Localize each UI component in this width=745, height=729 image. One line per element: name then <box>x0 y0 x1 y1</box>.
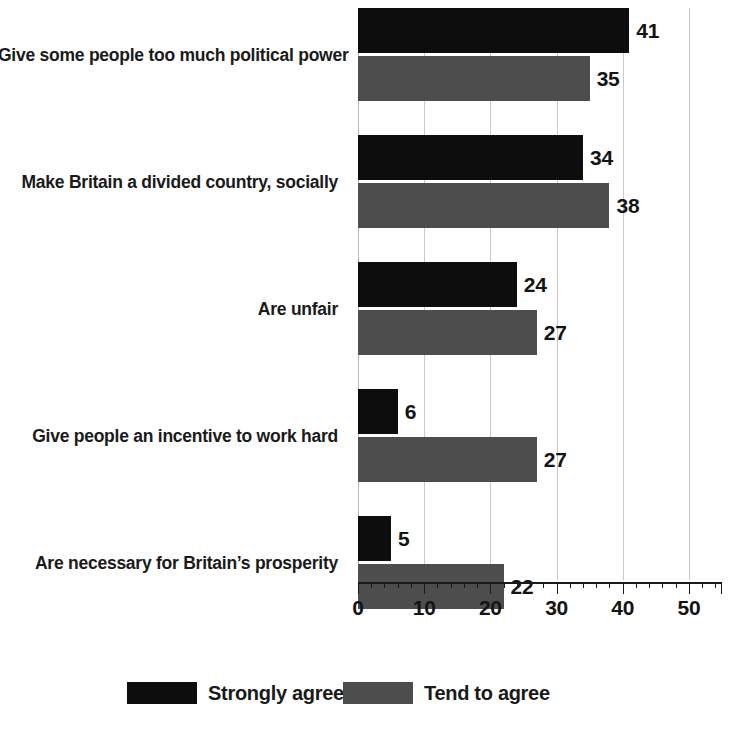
legend-swatch-icon <box>343 682 413 704</box>
tick-minor <box>715 582 716 588</box>
tick-major <box>490 582 491 594</box>
tick-minor <box>636 582 637 588</box>
category-label: Are necessary for Britain’s prosperity <box>0 552 338 573</box>
bar-group: 2427 <box>358 262 722 355</box>
bar-group: 4135 <box>358 8 722 101</box>
bar-row: 27 <box>358 437 722 482</box>
bar-row: 27 <box>358 310 722 355</box>
bar-tend-to-agree[interactable] <box>358 437 537 482</box>
tick-minor <box>451 582 452 588</box>
bar-value-label: 27 <box>544 448 567 472</box>
bar-value-label: 38 <box>616 194 639 218</box>
tick-minor <box>702 582 703 588</box>
x-tick-label: 20 <box>479 596 502 620</box>
tick-minor <box>530 582 531 588</box>
legend-label: Strongly agree <box>208 682 344 705</box>
plot-area: 413534382427627522 <box>358 8 722 580</box>
legend-label: Tend to agree <box>424 682 550 705</box>
category-label: Make Britain a divided country, socially <box>0 171 338 192</box>
bar-row: 35 <box>358 56 722 101</box>
bar-strongly-agree[interactable] <box>358 262 517 307</box>
tick-minor <box>649 582 650 588</box>
tick-minor <box>398 582 399 588</box>
tick-minor <box>517 582 518 588</box>
bar-row: 24 <box>358 262 722 307</box>
bar-strongly-agree[interactable] <box>358 389 398 434</box>
tick-major <box>689 582 690 594</box>
tick-minor <box>504 582 505 588</box>
bar-value-label: 41 <box>636 19 659 43</box>
x-axis-line <box>358 582 722 584</box>
tick-minor <box>477 582 478 588</box>
tick-minor <box>371 582 372 588</box>
bar-strongly-agree[interactable] <box>358 135 583 180</box>
bar-tend-to-agree[interactable] <box>358 310 537 355</box>
legend: Strongly agreeTend to agree <box>0 676 745 716</box>
bar-row: 34 <box>358 135 722 180</box>
bar-group: 627 <box>358 389 722 482</box>
x-tick-label: 50 <box>678 596 701 620</box>
x-tick-label: 40 <box>611 596 634 620</box>
tick-minor <box>411 582 412 588</box>
tick-minor <box>609 582 610 588</box>
tick-major <box>557 582 558 594</box>
tick-minor <box>437 582 438 588</box>
x-tick-label: 30 <box>545 596 568 620</box>
bar-row: 41 <box>358 8 722 53</box>
category-label: Are unfair <box>0 298 338 319</box>
tick-minor <box>570 582 571 588</box>
tick-major <box>623 582 624 594</box>
tick-minor <box>676 582 677 588</box>
tick-major <box>358 582 359 594</box>
category-label: Give some people too much political powe… <box>0 44 338 65</box>
bar-row: 5 <box>358 516 722 561</box>
x-axis: 01020304050 <box>358 582 722 596</box>
bar-group: 3438 <box>358 135 722 228</box>
tick-minor <box>596 582 597 588</box>
tick-minor <box>384 582 385 588</box>
x-tick-label: 10 <box>413 596 436 620</box>
tick-minor <box>464 582 465 588</box>
bar-tend-to-agree[interactable] <box>358 183 609 228</box>
bar-value-label: 24 <box>524 273 547 297</box>
tick-minor <box>583 582 584 588</box>
legend-swatch-icon <box>127 682 197 704</box>
legend-item[interactable]: Strongly agree <box>127 676 344 710</box>
bar-strongly-agree[interactable] <box>358 8 629 53</box>
tick-major <box>721 582 722 594</box>
bar-value-label: 6 <box>405 400 416 424</box>
bar-value-label: 34 <box>590 146 613 170</box>
bar-value-label: 5 <box>398 527 409 551</box>
tick-minor <box>543 582 544 588</box>
bar-value-label: 35 <box>597 67 620 91</box>
bar-row: 38 <box>358 183 722 228</box>
bar-tend-to-agree[interactable] <box>358 56 590 101</box>
tick-minor <box>662 582 663 588</box>
bar-strongly-agree[interactable] <box>358 516 391 561</box>
legend-item[interactable]: Tend to agree <box>343 676 550 710</box>
bar-value-label: 27 <box>544 321 567 345</box>
x-tick-label: 0 <box>352 596 363 620</box>
bar-row: 6 <box>358 389 722 434</box>
tick-major <box>424 582 425 594</box>
bar-chart: Give some people too much political powe… <box>0 0 745 729</box>
category-label: Give people an incentive to work hard <box>0 425 338 446</box>
